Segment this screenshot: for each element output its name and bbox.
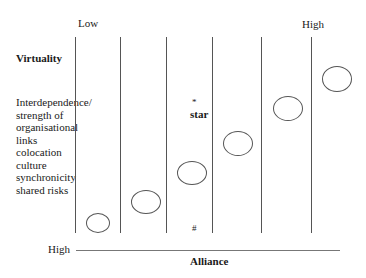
ellipse-1 xyxy=(86,213,110,233)
criterion: culture xyxy=(16,159,92,172)
virtuality-label: Virtuality xyxy=(16,52,62,65)
criterion: synchronicity xyxy=(16,171,92,184)
criterion: shared risks xyxy=(16,184,92,197)
ellipse-2 xyxy=(131,190,161,214)
column-divider xyxy=(261,37,262,233)
top-high-label: High xyxy=(302,18,324,31)
criterion: strength of xyxy=(16,109,92,122)
ellipse-4 xyxy=(223,131,253,156)
column-divider xyxy=(311,37,312,233)
ellipse-5 xyxy=(273,96,303,121)
column-divider xyxy=(212,37,213,233)
column-divider xyxy=(75,37,76,233)
criterion: links xyxy=(16,134,92,147)
criteria-list: Interdependence/ strength of organisatio… xyxy=(16,96,92,196)
criterion: Interdependence/ xyxy=(16,96,92,109)
criterion: organisational xyxy=(16,121,92,134)
bottom-high-label: High xyxy=(48,243,70,256)
ellipse-6 xyxy=(322,66,352,92)
column-divider xyxy=(166,37,167,233)
criterion: colocation xyxy=(16,146,92,159)
top-low-label: Low xyxy=(78,17,98,30)
bottom-axis-line xyxy=(76,250,340,251)
ellipse-3 xyxy=(177,161,207,185)
star-label: star xyxy=(190,108,208,121)
alliance-label: Alliance xyxy=(190,255,229,268)
column-divider xyxy=(120,37,121,233)
hash-marker: # xyxy=(192,222,197,235)
